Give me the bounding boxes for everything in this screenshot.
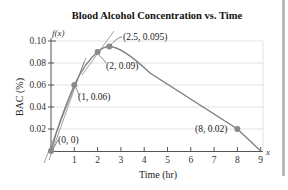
svg-text:4: 4 xyxy=(142,155,147,165)
chart-title: Blood Alcohol Concentration vs. Time xyxy=(72,10,243,21)
x-tick-labels: 1 2 3 4 5 6 7 8 9 xyxy=(72,155,263,165)
svg-text:8: 8 xyxy=(235,155,240,165)
x-axis-title: Time (hr) xyxy=(139,169,177,181)
svg-text:(2, 0.09): (2, 0.09) xyxy=(106,61,138,72)
y-tick-labels: 0.10 0.08 0.06 0.04 0.02 xyxy=(29,36,46,134)
point-1-0.06 xyxy=(71,82,77,88)
svg-text:0.10: 0.10 xyxy=(29,36,46,46)
svg-text:3: 3 xyxy=(119,155,124,165)
svg-text:1: 1 xyxy=(72,155,77,165)
svg-text:5: 5 xyxy=(165,155,170,165)
svg-text:(2.5, 0.095): (2.5, 0.095) xyxy=(123,32,167,43)
svg-text:6: 6 xyxy=(188,155,193,165)
y-axis-title: BAC (%) xyxy=(14,78,26,116)
svg-text:(0, 0): (0, 0) xyxy=(58,135,79,146)
point-2-0.09 xyxy=(95,49,101,55)
svg-text:0.02: 0.02 xyxy=(29,124,46,134)
svg-text:7: 7 xyxy=(212,155,217,165)
svg-text:9: 9 xyxy=(258,155,263,165)
svg-text:0.04: 0.04 xyxy=(29,102,46,112)
function-label: f(x) xyxy=(52,28,65,38)
svg-text:0.06: 0.06 xyxy=(29,80,46,90)
svg-text:(8, 0.02): (8, 0.02) xyxy=(195,124,227,135)
x-variable-label: x xyxy=(265,147,270,157)
right-border-bar xyxy=(282,0,285,176)
svg-text:0.08: 0.08 xyxy=(29,58,46,68)
svg-text:2: 2 xyxy=(95,155,100,165)
point-8-0.02 xyxy=(234,126,240,132)
svg-text:(1, 0.06): (1, 0.06) xyxy=(78,92,110,103)
bac-chart: Blood Alcohol Concentration vs. Time 0.1… xyxy=(0,0,288,190)
